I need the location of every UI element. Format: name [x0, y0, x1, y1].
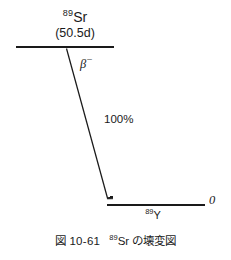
figure-caption-text: Sr の壊変図	[118, 235, 177, 247]
beta-charge-sign: −	[86, 54, 92, 65]
daughter-element-symbol: Y	[154, 209, 161, 221]
daughter-nuclide-label: 89Y	[125, 208, 181, 221]
parent-nuclide-label: 89Sr	[0, 9, 150, 24]
parent-mass-number: 89	[63, 8, 73, 18]
beta-decay-arrow	[67, 49, 108, 199]
figure-caption: 図 10-6189Sr の壊変図	[0, 234, 231, 247]
branching-ratio-label: 100%	[104, 114, 133, 126]
daughter-mass-number: 89	[145, 207, 153, 216]
caption-mass-number: 89	[109, 233, 117, 242]
figure-caption-number: 図 10-61	[55, 235, 101, 247]
parent-half-life-label: (50.5d)	[0, 27, 150, 40]
decay-scheme-figure: 89Sr (50.5d) β− 100% 89Y 0 図 10-6189Sr の…	[0, 0, 231, 260]
beta-minus-label: β−	[80, 55, 92, 71]
ground-state-energy-label: 0	[209, 194, 215, 207]
parent-element-symbol: Sr	[73, 9, 87, 25]
